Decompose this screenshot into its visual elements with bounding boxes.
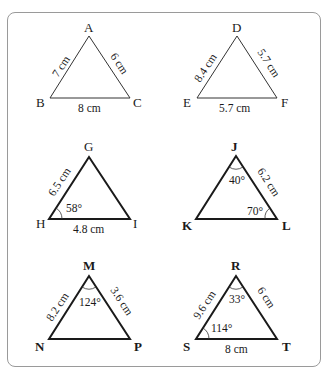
- triangle-ghi: G H I 6.5 cm 4.8 cm 58°: [36, 139, 137, 235]
- vertex-p: P: [134, 339, 142, 354]
- side-ac-label: 6 cm: [108, 51, 130, 77]
- triangle-jkl: J K L 6.2 cm 40° 70°: [182, 139, 291, 233]
- vertex-g: G: [84, 139, 93, 154]
- angle-r-arc: [229, 287, 243, 289]
- vertex-e: E: [183, 95, 191, 110]
- vertex-i: I: [133, 216, 137, 231]
- angle-j-arc: [229, 167, 243, 169]
- angle-j-label: 40°: [229, 174, 246, 186]
- angle-s-arc: [203, 328, 209, 339]
- vertex-d: D: [232, 20, 241, 35]
- vertex-s: S: [183, 339, 190, 354]
- side-rt-label: 6 cm: [255, 285, 277, 311]
- angle-s-label: 114°: [211, 322, 233, 334]
- angle-r-label: 33°: [229, 293, 246, 305]
- triangle-def: D E F 8.4 cm 5.7 cm 5.7 cm: [183, 20, 288, 114]
- angle-m-label: 124°: [79, 296, 101, 308]
- triangles-figure: A B C 7 cm 6 cm 8 cm D E F 8.4 cm 5.7 cm…: [0, 0, 329, 374]
- triangle-mnp: M N P 8.2 cm 3.6 cm 124°: [35, 258, 142, 354]
- side-ab-label: 7 cm: [50, 53, 72, 79]
- side-bc-label: 8 cm: [78, 102, 101, 114]
- angle-m-arc: [82, 287, 96, 289]
- vertex-t: T: [282, 339, 291, 354]
- angle-h-label: 58°: [66, 202, 83, 214]
- side-df-label: 5.7 cm: [255, 47, 282, 80]
- vertex-c: C: [133, 95, 142, 110]
- angle-l-label: 70°: [247, 205, 264, 217]
- side-ef-label: 5.7 cm: [219, 102, 250, 114]
- vertex-n: N: [35, 339, 45, 354]
- side-de-label: 8.4 cm: [192, 51, 219, 84]
- vertex-h: H: [36, 216, 45, 231]
- triangle-abc: A B C 7 cm 6 cm 8 cm: [36, 20, 142, 114]
- triangle-rst: R S T 9.6 cm 6 cm 8 cm 33° 114°: [183, 258, 291, 355]
- vertex-j: J: [231, 139, 238, 154]
- vertex-r: R: [231, 258, 241, 273]
- angle-h-arc: [56, 208, 62, 219]
- vertex-f: F: [281, 95, 288, 110]
- vertex-k: K: [182, 218, 193, 233]
- vertex-m: M: [83, 258, 95, 273]
- side-rs-label: 9.6 cm: [191, 288, 218, 321]
- side-st-label: 8 cm: [225, 343, 248, 355]
- side-mn-label: 8.2 cm: [44, 290, 71, 323]
- side-gh-label: 6.5 cm: [46, 165, 73, 198]
- vertex-b: B: [36, 95, 45, 110]
- side-hi-label: 4.8 cm: [73, 223, 104, 235]
- angle-l-arc: [265, 208, 270, 219]
- vertex-a: A: [84, 20, 94, 35]
- vertex-l: L: [282, 218, 291, 233]
